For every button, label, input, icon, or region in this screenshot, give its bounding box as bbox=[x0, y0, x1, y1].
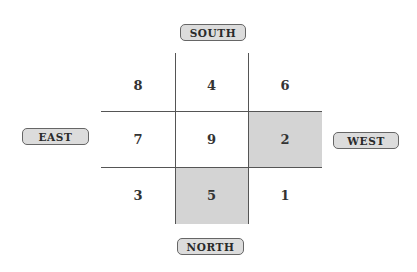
direction-label-north: NORTH bbox=[177, 238, 244, 255]
cell-number: 1 bbox=[280, 188, 289, 203]
east-label-text: EAST bbox=[39, 131, 73, 143]
cell-number: 6 bbox=[280, 78, 289, 93]
south-label-text: SOUTH bbox=[190, 27, 237, 39]
grid-cell-r2c3: 2 bbox=[248, 111, 322, 167]
grid-cell-r1c1: 8 bbox=[101, 60, 175, 111]
cell-number: 7 bbox=[133, 132, 142, 147]
cell-number: 2 bbox=[280, 132, 289, 147]
north-label-text: NORTH bbox=[186, 241, 234, 253]
cell-number: 8 bbox=[133, 78, 142, 93]
grid-cell-r2c2: 9 bbox=[175, 111, 248, 167]
direction-label-south: SOUTH bbox=[180, 24, 246, 41]
grid-cell-r1c2: 4 bbox=[175, 60, 248, 111]
grid-cell-r2c1: 7 bbox=[101, 111, 175, 167]
grid-cell-r3c1: 3 bbox=[101, 167, 175, 224]
grid-cell-r1c3: 6 bbox=[248, 60, 322, 111]
grid-cell-r3c3: 1 bbox=[248, 167, 322, 224]
direction-label-west: WEST bbox=[333, 132, 399, 149]
grid-cell-r3c2: 5 bbox=[175, 167, 248, 224]
cell-number: 3 bbox=[133, 188, 142, 203]
cell-number: 9 bbox=[207, 132, 216, 147]
magic-square-diagram: SOUTH EAST WEST NORTH 8 4 6 7 9 2 3 5 1 bbox=[0, 0, 417, 272]
west-label-text: WEST bbox=[347, 135, 385, 147]
direction-label-east: EAST bbox=[22, 128, 89, 145]
cell-number: 5 bbox=[207, 188, 216, 203]
cell-number: 4 bbox=[207, 78, 216, 93]
